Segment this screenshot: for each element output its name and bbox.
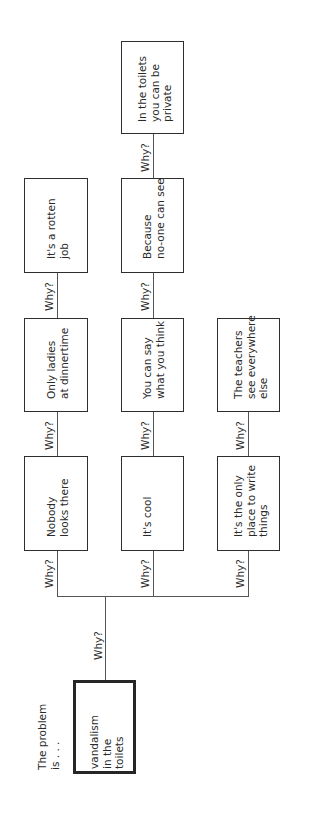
node-c2-l1: It's cool	[121, 456, 184, 551]
node-text: In the toilets you can be private	[136, 56, 174, 122]
why-label-c3-l1: Why?	[234, 559, 246, 588]
why-label-c3-l2: Why?	[234, 421, 246, 450]
connector-c2-l4	[153, 134, 154, 178]
node-text: It's a rotten job	[45, 198, 70, 259]
why-label-c2-l1: Why?	[139, 559, 151, 588]
why-label-c1-l3: Why?	[43, 282, 55, 311]
why-label-root: Why?	[92, 631, 104, 660]
connector-c1-l2	[57, 412, 58, 456]
node-c2-l3: Because no-one can see	[121, 178, 184, 273]
connector-c2-l1	[153, 551, 154, 596]
node-text: You can say what you think	[141, 321, 166, 399]
bracket-line	[57, 596, 249, 597]
why-label-c2-l2: Why?	[139, 421, 151, 450]
node-text: Only ladies at dinnertime	[45, 328, 70, 399]
why-label-c1-l2: Why?	[43, 421, 55, 450]
node-text: Nobody looks there	[45, 479, 70, 537]
connector-c1-l1	[57, 551, 58, 596]
connector-c2-l2	[153, 412, 154, 456]
connector-c3-l2	[248, 412, 249, 456]
connector-c1-l3	[57, 273, 58, 318]
node-text: It's the only place to write things	[232, 465, 270, 537]
problem-intro-label: The problem is . . .	[36, 704, 61, 770]
why-label-c2-l3: Why?	[139, 282, 151, 311]
node-c3-l2: The teachers see everywhere else	[217, 318, 280, 412]
node-c1-l1: Nobody looks there	[24, 456, 88, 551]
why-label-c1-l1: Why?	[43, 559, 55, 588]
node-c2-l2: You can say what you think	[121, 318, 184, 412]
problem-box: vandalism in the toilets	[73, 680, 136, 774]
stem-line	[105, 596, 106, 680]
why-label-c2-l4: Why?	[139, 143, 151, 172]
problem-text: vandalism in the toilets	[88, 715, 126, 769]
node-c2-l4: In the toilets you can be private	[121, 41, 184, 134]
connector-c2-l3	[153, 273, 154, 318]
node-c1-l2: Only ladies at dinnertime	[24, 318, 88, 412]
connector-c3-l1	[248, 551, 249, 596]
node-c3-l1: It's the only place to write things	[217, 456, 280, 551]
node-text: Because no-one can see	[141, 178, 166, 259]
node-text: It's cool	[141, 497, 154, 537]
node-text: The teachers see everywhere else	[232, 315, 270, 399]
node-c1-l3: It's a rotten job	[24, 178, 88, 273]
